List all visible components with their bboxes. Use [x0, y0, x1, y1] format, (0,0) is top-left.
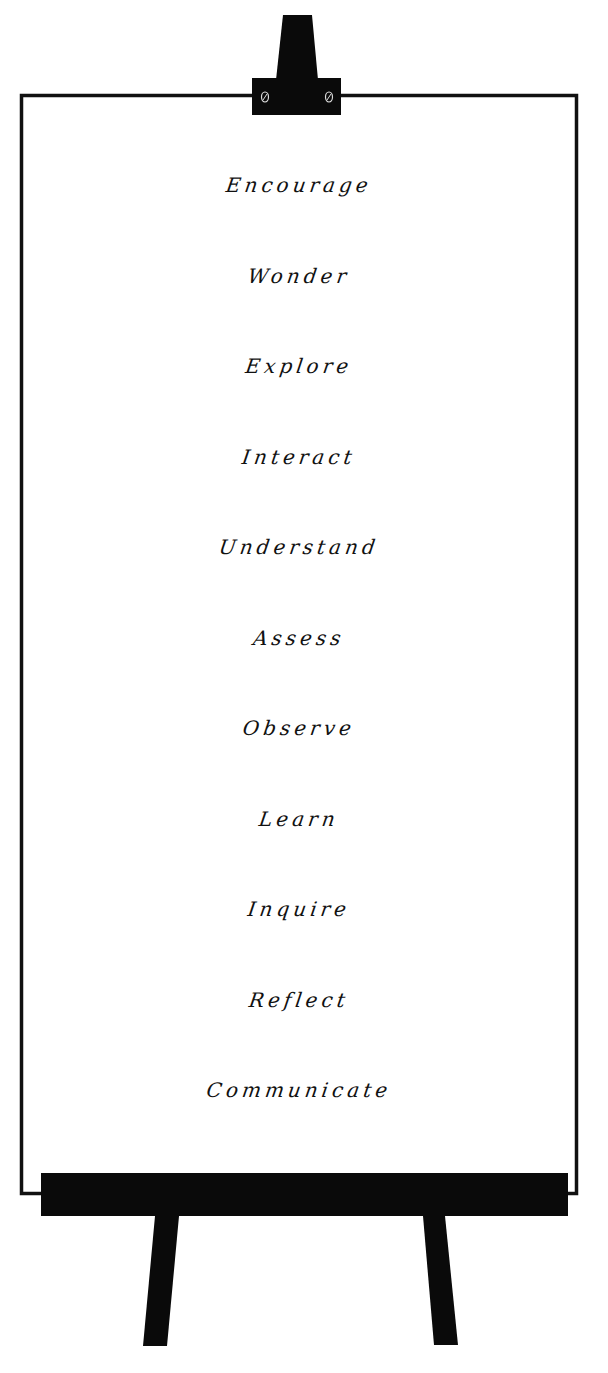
word-observe: Observe: [14, 683, 585, 774]
word-understand: Understand: [14, 502, 585, 593]
word-reflect: Reflect: [14, 955, 585, 1046]
word-wonder: Wonder: [14, 231, 585, 322]
easel-leg-left: [143, 1216, 179, 1346]
word-list: Encourage Wonder Explore Interact Unders…: [20, 140, 578, 1136]
easel-leg-right: [423, 1216, 458, 1345]
word-assess: Assess: [14, 593, 585, 684]
word-interact: Interact: [14, 412, 585, 503]
word-explore: Explore: [14, 321, 585, 412]
word-inquire: Inquire: [14, 864, 585, 955]
word-communicate: Communicate: [14, 1045, 585, 1136]
clamp-post: [276, 15, 318, 80]
word-learn: Learn: [14, 774, 585, 865]
easel-tray: [41, 1173, 568, 1216]
word-encourage: Encourage: [14, 140, 585, 231]
